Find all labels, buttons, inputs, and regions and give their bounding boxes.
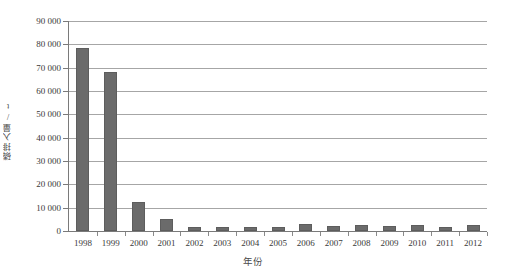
- x-axis-tick-mark: [376, 232, 377, 236]
- x-axis-tick-mark: [180, 232, 181, 236]
- y-axis-tick-mark: [63, 161, 69, 162]
- bar: [244, 227, 257, 231]
- bar: [383, 226, 396, 231]
- gridline: [69, 138, 487, 139]
- x-axis-tick-mark: [431, 232, 432, 236]
- bar: [272, 227, 285, 231]
- x-axis-tick-mark: [208, 232, 209, 236]
- y-axis-tick-mark: [63, 21, 69, 22]
- gridline: [69, 161, 487, 162]
- x-axis-tick-mark: [487, 232, 488, 236]
- bar: [327, 226, 340, 231]
- bar: [299, 224, 312, 231]
- y-axis-tick-label: 50 000: [36, 109, 61, 119]
- y-axis-tick-mark: [63, 91, 69, 92]
- y-axis-tick-label: 90 000: [36, 16, 61, 26]
- bar: [411, 225, 424, 231]
- bar: [76, 48, 89, 231]
- y-axis-tick-label: 80 000: [36, 39, 61, 49]
- bar-chart: 磷排入量/t 010 00020 00030 00040 00050 00060…: [0, 0, 506, 271]
- x-axis-tick-mark: [153, 232, 154, 236]
- x-axis-line: [69, 231, 487, 232]
- y-axis-tick-mark: [63, 231, 69, 232]
- x-axis-tick-mark: [459, 232, 460, 236]
- bar: [216, 227, 229, 231]
- x-axis-title: 年份: [0, 254, 506, 268]
- x-axis-tick-label: 2012: [453, 238, 493, 248]
- gridline: [69, 44, 487, 45]
- gridline: [69, 91, 487, 92]
- bar: [467, 225, 480, 231]
- y-axis-tick-label: 0: [57, 226, 62, 236]
- y-axis-title: 磷排入量/t: [0, 88, 16, 174]
- x-axis-tick-mark: [236, 232, 237, 236]
- bar: [188, 227, 201, 231]
- bar: [439, 227, 452, 231]
- x-axis-tick-mark: [292, 232, 293, 236]
- y-axis-tick-mark: [63, 44, 69, 45]
- x-axis-tick-mark: [403, 232, 404, 236]
- y-axis-tick-mark: [63, 68, 69, 69]
- y-axis-tick-label: 20 000: [36, 179, 61, 189]
- y-axis-tick-label: 10 000: [36, 203, 61, 213]
- gridline: [69, 184, 487, 185]
- x-axis-tick-mark: [348, 232, 349, 236]
- y-axis-tick-mark: [63, 208, 69, 209]
- gridline: [69, 68, 487, 69]
- gridline: [69, 114, 487, 115]
- y-axis-tick-label: 40 000: [36, 133, 61, 143]
- plot-area: [69, 21, 487, 231]
- bar: [104, 72, 117, 231]
- y-axis-tick-labels: 010 00020 00030 00040 00050 00060 00070 …: [16, 21, 65, 231]
- y-axis-tick-label: 70 000: [36, 63, 61, 73]
- bar: [132, 202, 145, 231]
- x-axis-tick-mark: [320, 232, 321, 236]
- y-axis-tick-label: 30 000: [36, 156, 61, 166]
- bar: [160, 219, 173, 231]
- bar: [355, 225, 368, 231]
- x-axis-tick-mark: [125, 232, 126, 236]
- y-axis-tick-mark: [63, 138, 69, 139]
- y-axis-tick-mark: [63, 184, 69, 185]
- x-axis-tick-mark: [264, 232, 265, 236]
- y-axis-tick-label: 60 000: [36, 86, 61, 96]
- gridline: [69, 21, 487, 22]
- y-axis-tick-mark: [63, 114, 69, 115]
- x-axis-tick-mark: [97, 232, 98, 236]
